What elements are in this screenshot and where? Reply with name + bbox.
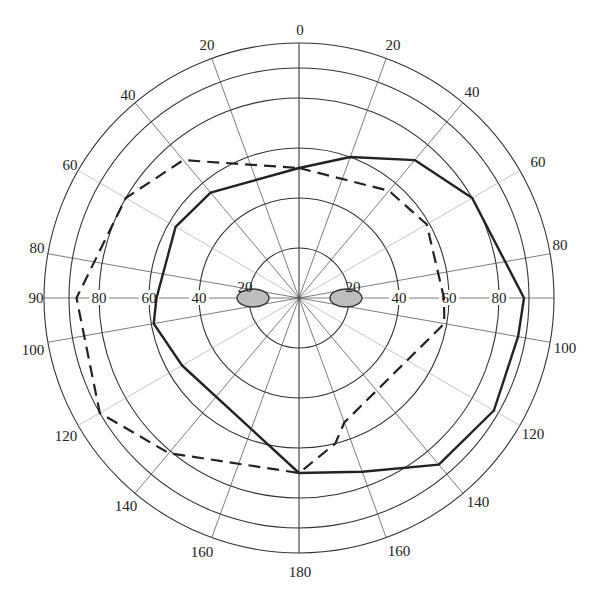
angle-label-40: 40 [465,84,480,100]
angle-label-40: 40 [121,87,136,103]
radial-tick-left-80: 80 [92,290,107,306]
grid-spokes [44,43,554,553]
angle-label-90: 90 [29,290,44,306]
radial-tick-right-40: 40 [392,290,407,306]
spoke-40-left [135,103,299,298]
angle-label-20: 20 [386,37,401,53]
radial-tick-right-80: 80 [492,290,507,306]
angle-label-60: 60 [531,154,546,170]
angle-label-180: 180 [289,564,312,580]
series-dashed [77,160,445,473]
angle-label-0: 0 [296,22,304,38]
polar-chart: 2040608020406080 02020404060608080901001… [0,0,598,601]
angle-label-120: 120 [522,426,545,442]
angle-label-100: 100 [22,342,45,358]
angle-label-20: 20 [200,37,215,53]
radial-tick-left-40: 40 [192,290,207,306]
angle-label-60: 60 [63,157,78,173]
radial-tick-left-20: 20 [238,279,253,295]
angle-label-100: 100 [554,340,577,356]
spoke-20-left [212,58,299,298]
data-series [77,157,525,473]
angle-label-160: 160 [191,544,214,560]
angle-label-120: 120 [55,428,78,444]
spoke-140-left [135,298,299,493]
angle-label-80: 80 [553,237,568,253]
radial-tick-right-20: 20 [346,279,361,295]
spoke-40-right [299,103,463,298]
spoke-160-left [212,298,299,538]
series-solid [154,157,524,473]
angle-label-160: 160 [388,543,411,559]
radial-tick-left-60: 60 [142,290,157,306]
angle-label-140: 140 [115,498,138,514]
angle-label-140: 140 [467,494,490,510]
angle-label-80: 80 [30,240,45,256]
spoke-160-right [299,298,386,538]
